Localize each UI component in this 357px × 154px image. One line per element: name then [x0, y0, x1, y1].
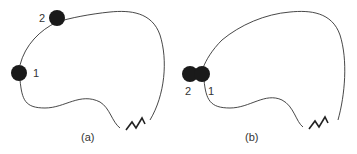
particle-1-b	[194, 66, 210, 82]
particle-label-1-b: 1	[208, 85, 214, 97]
closed-path-curve-b	[203, 11, 345, 127]
zigzag-break-icon-b	[309, 117, 328, 129]
particle-2-a	[49, 10, 65, 26]
panel-a: 1 2 (a)	[11, 10, 164, 143]
panel-caption-b: (b)	[245, 131, 258, 143]
particle-label-1-a: 1	[33, 67, 39, 79]
particle-1-a	[11, 65, 27, 81]
particle-label-2-b: 2	[185, 85, 191, 97]
panel-caption-a: (a)	[81, 131, 94, 143]
panel-b: 2 1 (b)	[182, 11, 345, 143]
closed-path-curve-a	[20, 11, 164, 128]
diagram-canvas: 1 2 (a) 2 1 (b)	[0, 0, 357, 154]
zigzag-break-icon-a	[126, 118, 145, 130]
particle-label-2-a: 2	[39, 12, 45, 24]
